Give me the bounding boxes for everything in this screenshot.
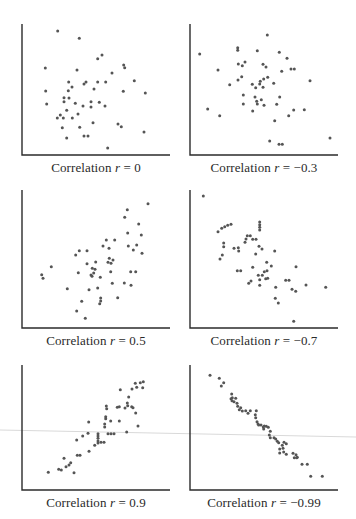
data-point: [99, 297, 102, 300]
data-point: [209, 374, 212, 377]
data-point: [132, 406, 135, 409]
data-point: [255, 238, 258, 241]
data-point: [75, 439, 78, 442]
data-point: [109, 270, 112, 273]
data-point: [90, 100, 93, 103]
data-point: [109, 420, 112, 423]
data-point: [124, 407, 127, 410]
data-point: [278, 96, 281, 99]
data-point: [110, 262, 113, 265]
data-point: [126, 404, 129, 407]
data-point: [241, 64, 244, 67]
data-point: [96, 57, 99, 60]
data-point: [222, 245, 225, 248]
correlation-scatter-grid: Correlation r = 0 Correlation r = −0.3 C…: [0, 0, 356, 519]
data-point: [127, 245, 130, 248]
data-point: [292, 320, 295, 323]
data-point: [76, 454, 79, 457]
data-point: [134, 270, 137, 273]
data-point: [92, 272, 95, 275]
data-point: [237, 246, 240, 249]
data-point: [280, 70, 283, 73]
data-point: [269, 430, 272, 433]
data-point: [45, 103, 48, 106]
scatter-panel-0: [22, 24, 170, 155]
data-point: [306, 463, 309, 466]
data-point: [277, 302, 280, 305]
data-point: [105, 405, 108, 408]
data-point: [259, 80, 262, 83]
data-point: [244, 61, 247, 64]
data-point: [285, 453, 288, 456]
data-point: [134, 412, 137, 415]
data-point: [102, 245, 105, 248]
data-point: [244, 241, 247, 244]
data-point: [65, 465, 68, 468]
data-point: [91, 267, 94, 270]
scatter-panel-5: [190, 365, 338, 490]
data-point: [233, 400, 236, 403]
data-point: [236, 402, 239, 405]
data-point: [251, 83, 254, 86]
data-point: [241, 410, 244, 413]
data-point: [251, 238, 254, 241]
data-point: [81, 435, 84, 438]
data-point: [135, 386, 138, 389]
data-point: [98, 101, 101, 104]
data-point: [278, 452, 281, 455]
data-point: [63, 96, 66, 99]
data-point: [263, 270, 266, 273]
data-point: [68, 97, 71, 100]
data-point: [65, 109, 68, 112]
data-point: [258, 245, 261, 248]
data-point: [123, 216, 126, 219]
data-point: [113, 239, 116, 242]
data-point: [237, 79, 240, 82]
data-point: [270, 265, 273, 268]
data-point: [134, 382, 137, 385]
data-point: [292, 109, 295, 112]
data-point: [309, 79, 312, 82]
data-point: [258, 278, 261, 281]
data-point: [233, 247, 236, 250]
data-point: [130, 284, 133, 287]
data-point: [254, 86, 257, 89]
data-point: [116, 296, 119, 299]
data-point: [228, 83, 231, 86]
data-point: [321, 475, 324, 478]
data-point: [234, 397, 237, 400]
data-point: [268, 140, 271, 143]
data-point: [249, 234, 252, 237]
data-point: [120, 125, 123, 128]
data-point: [303, 108, 306, 111]
data-point: [247, 412, 250, 415]
data-point: [236, 49, 239, 52]
scatter-panel-3: [190, 190, 338, 328]
data-point: [63, 100, 66, 103]
data-point: [87, 432, 90, 435]
data-point: [237, 63, 240, 66]
data-point: [258, 284, 261, 287]
data-point: [242, 94, 245, 97]
data-point: [272, 82, 275, 85]
data-point: [78, 249, 81, 252]
data-point: [254, 96, 257, 99]
data-point: [261, 274, 264, 277]
data-point: [277, 441, 280, 444]
data-point: [294, 290, 297, 293]
data-point: [67, 89, 70, 92]
data-point: [262, 86, 265, 89]
data-point: [107, 432, 110, 435]
data-point: [57, 468, 60, 471]
data-point: [118, 405, 121, 408]
data-point: [237, 250, 240, 253]
axes-3: [190, 190, 338, 328]
data-point: [97, 442, 100, 445]
caption-r-neg-0-99: Correlation r = −0.99: [207, 495, 321, 511]
data-point: [74, 254, 77, 257]
data-point: [71, 86, 74, 89]
data-point: [262, 78, 265, 81]
data-point: [247, 282, 250, 285]
data-point: [254, 416, 257, 419]
data-point: [236, 269, 239, 272]
